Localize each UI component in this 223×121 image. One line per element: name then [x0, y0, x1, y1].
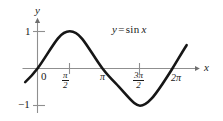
equation-annotation: y=sinx — [112, 24, 147, 35]
equation-function-name: sin — [126, 23, 140, 35]
equation-operator: = — [117, 23, 126, 35]
x-tick-label-pi-over-2: π 2 — [62, 71, 69, 91]
fraction-pi-over-2: π 2 — [62, 71, 69, 91]
y-tick-label-1: 1 — [25, 26, 31, 37]
fraction-denominator: 2 — [133, 80, 144, 90]
plot-canvas — [0, 0, 223, 121]
x-axis-label: x — [204, 62, 209, 73]
x-tick-label-2pi: 2π — [171, 73, 181, 83]
x-tick-label-pi: π — [100, 72, 105, 82]
y-axis-label: y — [35, 5, 40, 16]
fraction-numerator: π — [62, 71, 69, 80]
fraction-numerator: 3π — [133, 71, 144, 80]
equation-argument: x — [139, 23, 146, 35]
sine-function-graph: y x 1 −1 0 π 2 π 3π 2 2π y=sinx — [0, 0, 223, 121]
fraction-3pi-over-2: 3π 2 — [133, 71, 144, 91]
x-tick-label-3pi-over-2: 3π 2 — [133, 71, 144, 91]
y-tick-label-negative-1: −1 — [18, 99, 30, 110]
fraction-denominator: 2 — [62, 80, 69, 90]
origin-label: 0 — [41, 71, 47, 82]
